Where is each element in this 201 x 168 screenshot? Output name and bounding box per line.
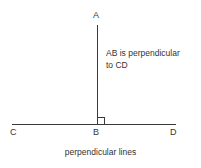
annotation-text: AB is perpendicular to CD [106, 47, 201, 71]
geometry-canvas [0, 0, 201, 168]
perpendicular-lines-figure: A C B D AB is perpendicular to CD perpen… [0, 0, 201, 168]
annotation-line-2: to CD [106, 59, 201, 71]
point-label-d: D [170, 127, 177, 137]
annotation-line-1: AB is perpendicular [106, 47, 201, 59]
point-label-a: A [93, 10, 99, 20]
point-label-b: B [93, 127, 99, 137]
point-label-c: C [10, 127, 17, 137]
right-angle-marker-icon [98, 118, 105, 125]
figure-caption: perpendicular lines [0, 147, 201, 158]
